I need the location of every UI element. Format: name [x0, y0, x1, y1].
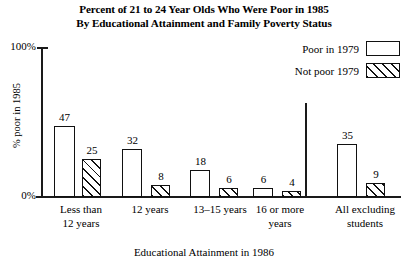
bar-less-than-12-years-poor-1979 — [54, 126, 75, 197]
bar-value-less-than-12-years-not-poor-1979: 25 — [74, 144, 110, 156]
bar-value-16-or-more-years-not-poor-1979: 4 — [274, 176, 310, 188]
bar-16-or-more-years-not-poor-1979 — [282, 191, 301, 197]
bar-value-less-than-12-years-poor-1979: 47 — [46, 111, 83, 123]
bar-value-13-15-years-poor-1979: 18 — [182, 155, 219, 167]
bar-value-13-15-years-not-poor-1979: 6 — [211, 173, 247, 185]
bar-13-15-years-poor-1979 — [190, 170, 210, 197]
chart-title: Percent of 21 to 24 Year Olds Who Were P… — [0, 2, 408, 30]
y-axis-title: % poor in 1985 — [11, 61, 22, 171]
bar-all-excluding-students-poor-1979 — [337, 144, 357, 197]
bar-value-12-years-poor-1979: 32 — [114, 134, 151, 146]
chart-title-line-2: By Educational Attainment and Family Pov… — [0, 16, 408, 30]
bar-12-years-poor-1979 — [122, 149, 142, 197]
y-axis-tick-100 — [37, 47, 48, 49]
x-axis-category-label-less-than-12-years: Less than 12 years — [43, 203, 119, 230]
y-axis-line — [41, 47, 43, 197]
chart-title-line-1: Percent of 21 to 24 Year Olds Who Were P… — [0, 2, 408, 16]
bar-12-years-not-poor-1979 — [151, 185, 170, 197]
chart-figure: Percent of 21 to 24 Year Olds Who Were P… — [0, 0, 408, 266]
x-axis-category-label-16-or-more-years: 16 or more years — [240, 203, 320, 230]
bar-all-excluding-students-not-poor-1979 — [366, 183, 385, 197]
bar-16-or-more-years-poor-1979 — [253, 188, 273, 197]
bar-value-all-excluding-students-not-poor-1979: 9 — [358, 168, 394, 180]
bar-13-15-years-not-poor-1979 — [219, 188, 238, 197]
bar-value-all-excluding-students-poor-1979: 35 — [329, 129, 366, 141]
y-axis-tick-label-100: 100% — [2, 40, 36, 52]
y-axis-tick-label-0: 0% — [2, 189, 36, 201]
bar-less-than-12-years-not-poor-1979 — [82, 159, 101, 197]
bar-value-12-years-not-poor-1979: 8 — [143, 170, 179, 182]
x-axis-category-label-all-excluding-students: All excluding students — [322, 203, 408, 230]
x-axis-title: Educational Attainment in 1986 — [0, 246, 408, 258]
